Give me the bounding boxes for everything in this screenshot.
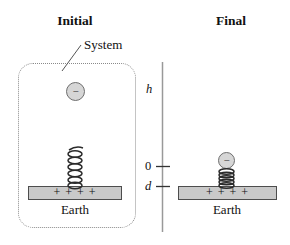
plate-positive-charges-final: + + + + xyxy=(179,187,276,198)
negative-charge-ball-final: − xyxy=(218,152,235,169)
minus-charge-symbol: − xyxy=(223,155,229,166)
axis-label-zero: 0 xyxy=(145,159,151,174)
axis-label-d: d xyxy=(145,179,151,194)
initial-state-title: Initial xyxy=(35,13,115,29)
earth-label-final: Earth xyxy=(187,202,267,218)
earth-plate-final: + + + + xyxy=(178,186,277,200)
system-label: System xyxy=(84,37,122,53)
earth-label-initial: Earth xyxy=(35,202,115,218)
minus-charge-symbol: − xyxy=(72,86,78,97)
final-state-title: Final xyxy=(191,13,271,29)
earth-plate-initial: + + + + xyxy=(28,186,122,200)
plate-positive-charges-initial: + + + + xyxy=(29,187,121,198)
physics-diagram: Initial Final System + + + + + + + + Ear… xyxy=(0,0,290,245)
axis-label-h: h xyxy=(146,82,152,97)
negative-charge-ball-initial: − xyxy=(66,82,85,101)
